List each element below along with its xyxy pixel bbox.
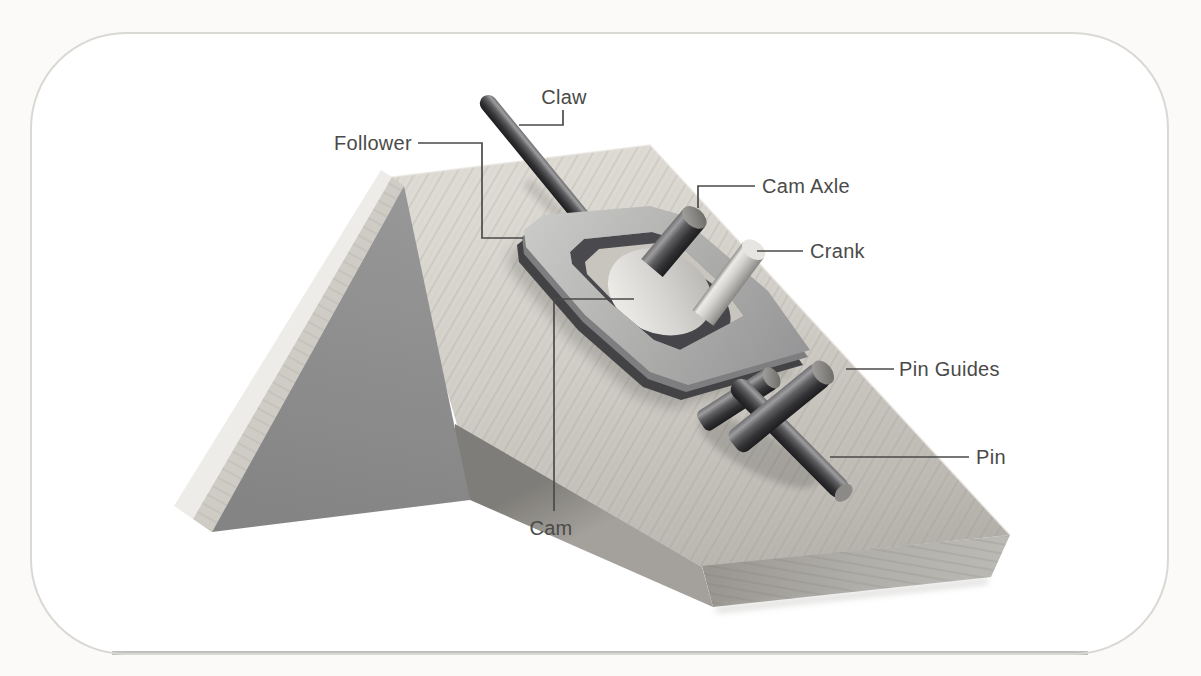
label-cam-axle: Cam Axle (762, 175, 850, 197)
label-claw: Claw (541, 86, 587, 108)
diagram-canvas: Claw Follower Cam Axle Crank Pin Guides … (0, 0, 1201, 676)
label-pin: Pin (976, 446, 1006, 468)
label-crank: Crank (810, 240, 866, 262)
diagram-page: Claw Follower Cam Axle Crank Pin Guides … (0, 0, 1201, 676)
label-follower: Follower (334, 132, 412, 154)
label-pin-guides: Pin Guides (899, 358, 1000, 380)
label-cam: Cam (529, 517, 572, 539)
